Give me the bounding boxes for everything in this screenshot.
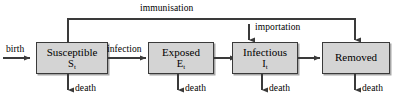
node-susceptible: Susceptible St [36,42,108,74]
edge-label-death-infectious: death [269,83,290,93]
node-infectious-title: Infectious [243,47,287,58]
edge-label-infection: infection [107,44,142,54]
edge-label-death-removed: death [362,83,383,93]
node-exposed: Exposed Et [148,42,214,74]
edge-label-birth: birth [6,44,24,54]
seir-compartment-diagram: Susceptible St Exposed Et Infectious It … [0,0,402,106]
node-susceptible-title: Susceptible [47,47,98,58]
edge-label-death-exposed: death [185,83,206,93]
node-exposed-title: Exposed [162,47,200,58]
edge-immunisation-line [68,19,355,44]
node-infectious-state: It [262,59,267,70]
node-infectious: Infectious It [232,42,298,74]
edge-label-immunisation: immunisation [140,3,193,13]
node-susceptible-state: St [68,59,76,70]
edge-label-importation: importation [255,22,300,32]
node-exposed-state: Et [177,59,185,70]
node-removed-title: Removed [335,52,377,63]
edge-label-death-susceptible: death [75,83,96,93]
node-removed: Removed [322,42,390,74]
